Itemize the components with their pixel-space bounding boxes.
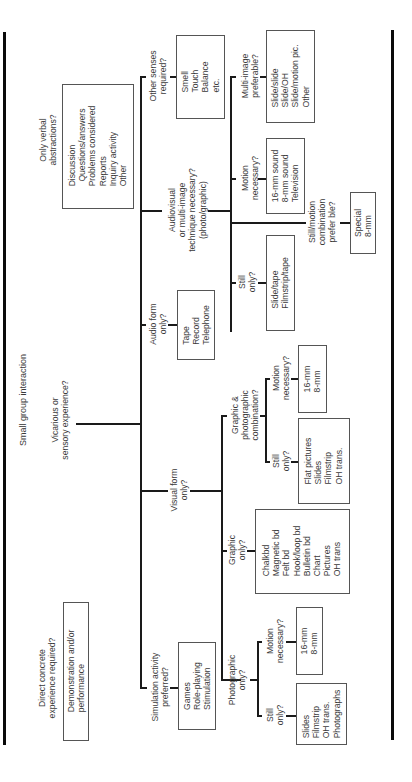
combo-box: Special8-mm bbox=[350, 192, 376, 254]
box-item: Smell bbox=[180, 61, 190, 92]
multi-box: Slide/slideSlide/OHSlide/motion pic.Othe… bbox=[266, 30, 315, 123]
box-item: Special bbox=[353, 209, 363, 237]
audio-box: TapeRecordTelephone bbox=[177, 290, 215, 360]
box-item: Chart bbox=[312, 526, 322, 577]
connector-gp-motion bbox=[265, 378, 270, 380]
direct-question: Direct concreteexperience required? bbox=[37, 638, 57, 719]
label-line: Still bbox=[265, 705, 275, 726]
box-item: Bulletin bd bbox=[302, 526, 312, 577]
graphic-box: ChalkbdMagnetic bdFelt bdHook/loop bdBul… bbox=[255, 509, 350, 594]
label-line: abstractions? bbox=[48, 114, 58, 165]
label-line: necessary? bbox=[275, 619, 285, 663]
simulation-box: GamesRole-playingStimulation bbox=[178, 642, 216, 730]
label-line: Simulation activity bbox=[150, 653, 160, 722]
connector-simulation-box bbox=[170, 687, 178, 689]
box-item: Balance bbox=[200, 61, 210, 92]
box-item: Other bbox=[300, 44, 310, 107]
label-line: or multi-image bbox=[177, 168, 187, 252]
photo-motion-box: 16-mm8-mm bbox=[296, 607, 323, 675]
connector-senses bbox=[140, 76, 146, 78]
connector-combo-box bbox=[340, 222, 350, 224]
box-item: Inquiry activity bbox=[108, 106, 118, 187]
box-item: OH trans. bbox=[321, 690, 331, 739]
box-item: Stimulation bbox=[202, 662, 212, 710]
senses-question: Other sensesrequired? bbox=[148, 50, 168, 101]
connector-av-still bbox=[230, 282, 236, 284]
box-content: SmellTouchBalanceetc. bbox=[180, 61, 221, 92]
box-content: GamesRole-playingStimulation bbox=[182, 662, 213, 710]
box-content: 16-mm sound8-mm soundTelevision bbox=[270, 150, 301, 203]
combo-question: Still/motioncombinationprefer ble? bbox=[307, 199, 338, 245]
box-item: Touch bbox=[190, 61, 200, 92]
connector-av-trunk bbox=[208, 210, 230, 212]
gp-motion-box: 16-mm8-mm bbox=[298, 345, 327, 413]
box-content: 16-mm8-mm bbox=[299, 628, 319, 655]
connector-av-motion bbox=[230, 178, 236, 180]
label-line: Still/motion bbox=[307, 199, 317, 245]
diagram-title: Small group interaction bbox=[18, 354, 28, 446]
connector-simulation bbox=[140, 687, 147, 689]
connector-av bbox=[140, 210, 162, 212]
photo-still-box: SlidesFilmstripOH trans.Photographs bbox=[296, 683, 347, 745]
connector-audio-box bbox=[168, 324, 177, 326]
photo-trunk bbox=[257, 641, 259, 716]
label-line: Still bbox=[237, 272, 247, 293]
box-item: Telephone bbox=[201, 305, 211, 345]
connector-gp-still bbox=[265, 461, 270, 463]
box-content: Flat picturesSlidesFilmstripOH trans. bbox=[303, 438, 344, 485]
label-line: Audiovisual bbox=[167, 168, 177, 252]
box-item: Record bbox=[191, 305, 201, 345]
left-border bbox=[3, 32, 6, 745]
label-line: preferable? bbox=[250, 54, 260, 98]
label-line: Motion bbox=[271, 356, 281, 400]
photo-still-question: Stillonly? bbox=[265, 705, 285, 726]
box-item: Filmstrip/tape bbox=[280, 257, 290, 309]
label-line: experience required? bbox=[47, 638, 57, 719]
box-item: Felt bd bbox=[282, 526, 292, 577]
box-item: Television bbox=[290, 150, 300, 203]
connector-visual bbox=[140, 490, 168, 492]
connector-photo-still bbox=[257, 715, 262, 717]
verbal-question: Only verbalabstractions? bbox=[38, 114, 58, 165]
connector-audio bbox=[140, 324, 146, 326]
photo-motion-question: Motionnecessary? bbox=[265, 619, 285, 663]
gp-trunk bbox=[265, 378, 267, 462]
connector-graphic-box bbox=[247, 550, 255, 552]
label-line: only? bbox=[247, 272, 257, 293]
box-item: Slides bbox=[301, 690, 311, 739]
box-item: Filmstrip bbox=[323, 438, 333, 485]
box-item: Problems considered bbox=[88, 106, 98, 187]
box-item: Pictures bbox=[322, 526, 332, 577]
label-line: only? bbox=[179, 469, 189, 512]
label-line: Still bbox=[271, 451, 281, 472]
box-item: 16-mm bbox=[302, 366, 312, 393]
label-line: Multi-image bbox=[240, 54, 250, 98]
main-trunk bbox=[140, 76, 142, 688]
box-item: Flat pictures bbox=[303, 438, 313, 485]
label-line: only? bbox=[237, 655, 247, 706]
gp-still-box: Flat picturesSlidesFilmstripOH trans. bbox=[298, 418, 350, 504]
box-item: Questions/answers bbox=[78, 106, 88, 187]
box-item: etc. bbox=[210, 61, 220, 92]
label-line: only? bbox=[281, 451, 291, 472]
box-item: Slide/tape bbox=[270, 257, 280, 309]
connector-vicarious bbox=[76, 423, 140, 425]
av-still-question: Stillonly? bbox=[237, 272, 257, 293]
label-line: technique necessary? bbox=[187, 168, 197, 252]
connector-photo-trunk bbox=[250, 679, 257, 681]
label-line: Visual form bbox=[169, 469, 179, 512]
connector-photo-motion bbox=[257, 641, 262, 643]
label-line: only? bbox=[158, 303, 168, 345]
verbal-box: Discussion Questions/answersProblems con… bbox=[62, 84, 134, 209]
box-item: 8-mm sound bbox=[280, 150, 290, 203]
connector-av-motion-box bbox=[258, 178, 266, 180]
box-item: Discussion bbox=[67, 106, 77, 187]
box-item: Role-playing bbox=[192, 662, 202, 710]
gp-motion-question: Motionnecessary? bbox=[271, 356, 291, 400]
connector-gp bbox=[221, 415, 227, 417]
box-content: 16-mm8-mm bbox=[302, 366, 322, 393]
av-still-box: Slide/tapeFilmstrip/tape bbox=[266, 235, 295, 331]
box-item: 16-mm sound bbox=[270, 150, 280, 203]
label-line: sensory experience? bbox=[60, 380, 70, 459]
label-line: Graphic bbox=[227, 535, 237, 565]
